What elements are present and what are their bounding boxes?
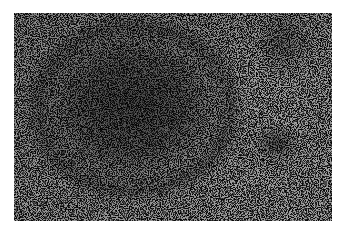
histology-micrograph — [14, 13, 332, 221]
cytoplasm-speckle-texture — [14, 13, 332, 221]
page — [0, 0, 344, 231]
